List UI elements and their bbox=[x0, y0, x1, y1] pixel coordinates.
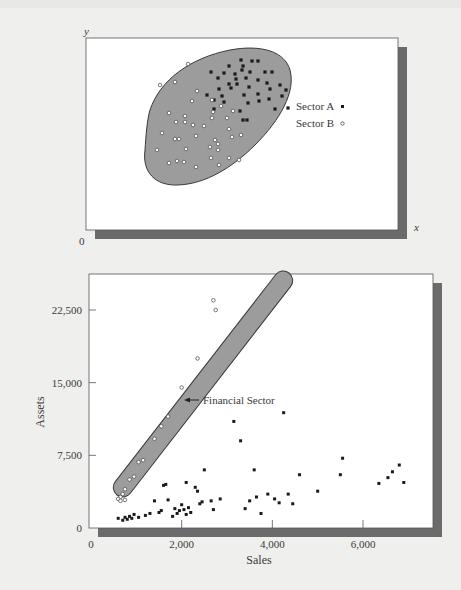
y-tick-label: 0 bbox=[77, 522, 83, 534]
sector-a-point bbox=[205, 93, 208, 96]
financial-sector-point bbox=[137, 460, 141, 464]
sector-a-point bbox=[235, 82, 238, 85]
other-sector-point bbox=[386, 476, 389, 479]
other-sector-point bbox=[176, 512, 179, 515]
sector-b-point bbox=[219, 104, 223, 108]
y-tick-label: 15,000 bbox=[52, 377, 83, 389]
other-sector-point bbox=[398, 464, 401, 467]
sector-a-point bbox=[270, 70, 273, 73]
financial-sector-point bbox=[214, 308, 218, 312]
sector-b-point bbox=[183, 114, 187, 118]
sector-a-point bbox=[240, 68, 243, 71]
sector-b-point bbox=[230, 135, 234, 139]
other-sector-point bbox=[137, 516, 140, 519]
other-sector-point bbox=[133, 513, 136, 516]
sector-b-point bbox=[194, 134, 198, 138]
sector-a-point bbox=[267, 97, 270, 100]
bottom-chart: 07,50015,00022,500 02,0004,0006,000 Asse… bbox=[33, 265, 442, 567]
sector-b-point bbox=[190, 99, 194, 103]
y-tick-label: 7,500 bbox=[57, 449, 82, 461]
sector-b-point bbox=[227, 127, 231, 131]
sector-a-point bbox=[257, 99, 260, 102]
sector-b-point bbox=[186, 62, 190, 66]
financial-sector-point bbox=[153, 437, 157, 441]
sector-a-point bbox=[278, 83, 281, 86]
x-tick-label: 2,000 bbox=[169, 538, 194, 550]
sector-b-point bbox=[239, 133, 243, 137]
other-sector-point bbox=[201, 500, 204, 503]
other-sector-point bbox=[219, 497, 222, 500]
sector-b-point bbox=[155, 148, 159, 152]
other-sector-point bbox=[248, 499, 251, 502]
sector-b-point bbox=[175, 159, 179, 163]
x-axis-title: Sales bbox=[246, 553, 272, 567]
sector-a-point bbox=[220, 94, 223, 97]
y-tick-label: 22,500 bbox=[52, 304, 83, 316]
x-tick-label: 6,000 bbox=[351, 538, 376, 550]
top-x-axis-label: x bbox=[413, 221, 419, 233]
sector-a-point bbox=[250, 59, 253, 62]
other-sector-point bbox=[180, 503, 183, 506]
top-origin-label: 0 bbox=[79, 235, 85, 247]
sector-a-point bbox=[217, 87, 220, 90]
y-axis-title: Assets bbox=[33, 396, 47, 428]
sector-b-point bbox=[227, 156, 231, 160]
other-sector-point bbox=[391, 470, 394, 473]
legend-sector-b-label: Sector B bbox=[296, 117, 334, 129]
legend-sector-b-marker bbox=[341, 122, 344, 125]
other-sector-point bbox=[153, 499, 156, 502]
sector-b-point bbox=[213, 138, 217, 142]
other-sector-point bbox=[278, 501, 281, 504]
sector-b-point bbox=[167, 161, 171, 165]
x-tick-label: 0 bbox=[88, 538, 94, 550]
other-sector-point bbox=[282, 411, 285, 414]
other-sector-point bbox=[244, 507, 247, 510]
other-sector-point bbox=[182, 508, 185, 511]
other-sector-point bbox=[260, 512, 263, 515]
other-sector-point bbox=[160, 509, 163, 512]
other-sector-point bbox=[402, 481, 405, 484]
sector-b-point bbox=[173, 137, 177, 141]
sector-a-point bbox=[265, 81, 268, 84]
other-sector-point bbox=[196, 490, 199, 493]
sector-b-point bbox=[216, 142, 220, 146]
x-tick-label: 4,000 bbox=[260, 538, 285, 550]
sector-b-point bbox=[177, 137, 181, 141]
other-sector-point bbox=[130, 517, 133, 520]
sector-a-point bbox=[256, 92, 259, 95]
sector-b-point bbox=[195, 89, 199, 93]
sector-a-point bbox=[227, 82, 230, 85]
sector-a-point bbox=[229, 86, 232, 89]
sector-a-point bbox=[222, 100, 225, 103]
financial-sector-point bbox=[123, 498, 127, 502]
sector-a-point bbox=[263, 70, 266, 73]
other-sector-point bbox=[239, 439, 242, 442]
other-sector-point bbox=[341, 457, 344, 460]
other-sector-point bbox=[121, 519, 124, 522]
sector-a-point bbox=[233, 72, 236, 75]
sector-a-point bbox=[256, 78, 259, 81]
financial-sector-point bbox=[119, 499, 123, 503]
financial-sector-point bbox=[159, 424, 163, 428]
sector-a-point bbox=[286, 106, 289, 109]
financial-sector-point bbox=[166, 415, 170, 419]
sector-b-point bbox=[167, 111, 171, 115]
other-sector-point bbox=[126, 518, 129, 521]
sector-a-point bbox=[241, 118, 244, 121]
other-sector-point bbox=[287, 493, 290, 496]
sector-b-point bbox=[184, 147, 188, 151]
sector-a-point bbox=[239, 58, 242, 61]
sector-a-point bbox=[241, 64, 244, 67]
other-sector-point bbox=[148, 512, 151, 515]
legend-sector-a-label: Sector A bbox=[296, 100, 334, 112]
other-sector-point bbox=[185, 513, 188, 516]
sector-b-point bbox=[210, 116, 214, 120]
sector-a-point bbox=[247, 85, 250, 88]
other-sector-point bbox=[185, 481, 188, 484]
sector-a-point bbox=[216, 76, 219, 79]
sector-a-point bbox=[268, 87, 271, 90]
other-sector-point bbox=[164, 483, 167, 486]
sector-b-point bbox=[211, 110, 215, 114]
sector-a-point bbox=[284, 88, 287, 91]
other-sector-point bbox=[144, 514, 147, 517]
